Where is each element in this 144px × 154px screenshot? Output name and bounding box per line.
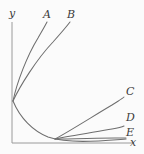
curve-label-c: C — [126, 86, 134, 97]
curve-D — [55, 126, 124, 139]
solution-curves-group — [13, 22, 126, 141]
curve-label-b: B — [67, 9, 75, 20]
ode-solution-curves-figure: y x A B C D E — [0, 0, 144, 154]
curve-B — [13, 22, 70, 101]
curve-A — [13, 22, 47, 101]
axes-group — [12, 22, 134, 143]
curve-label-e: E — [126, 127, 134, 138]
curve-label-d: D — [126, 112, 135, 123]
y-axis-label: y — [9, 8, 15, 19]
curve-label-a: A — [43, 9, 51, 20]
curve-E — [55, 138, 126, 139]
figure-canvas — [0, 0, 144, 154]
